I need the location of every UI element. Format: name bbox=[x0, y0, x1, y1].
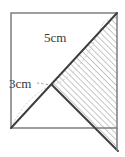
geometry-figure: 5cm 3cm bbox=[0, 0, 125, 157]
label-leader-3cm bbox=[37, 83, 51, 85]
dimension-label-3cm: 3cm bbox=[9, 77, 31, 90]
dimension-label-5cm: 5cm bbox=[44, 31, 66, 44]
